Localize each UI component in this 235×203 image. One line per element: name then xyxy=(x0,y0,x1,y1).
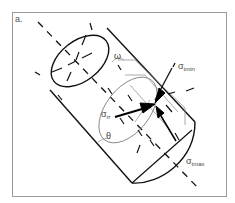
borehole-axis xyxy=(38,22,200,190)
sigma-tmax-label: σtmax xyxy=(186,157,205,167)
cylinder-top-ellipse xyxy=(42,25,119,97)
cylinder-side-left xyxy=(50,90,132,183)
panel-label: a. xyxy=(15,14,23,24)
diagram-canvas xyxy=(0,0,235,203)
top-ellipse-crosshair xyxy=(35,23,92,100)
sigma-tmax-arrowhead xyxy=(156,106,164,118)
borehole-stress-diagram: a. ω σtmin σrr θ σtmax xyxy=(0,0,235,203)
omega-label: ω xyxy=(114,52,121,61)
sigma-rr-label: σrr xyxy=(101,110,111,120)
bottom-cap-diameter xyxy=(132,130,192,183)
sigma-tmin-label: σtmin xyxy=(178,62,195,72)
theta-label: θ xyxy=(106,132,111,141)
stress-arrows xyxy=(115,88,176,141)
